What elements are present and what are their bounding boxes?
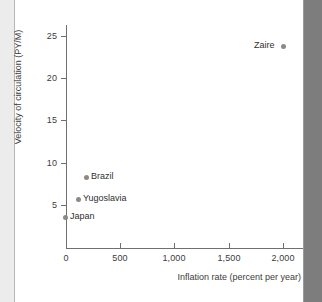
data-point-label-brazil: Brazil — [91, 171, 114, 181]
x-axis-tick-label: 0 — [46, 253, 86, 263]
y-axis-tick-mark — [61, 78, 67, 79]
y-axis-tick-label: 20 — [31, 73, 57, 83]
y-axis-title: Velocity of circulation (PY/M) — [13, 17, 23, 157]
y-axis-tick-mark — [61, 36, 67, 37]
data-point-zaire[interactable] — [281, 44, 286, 49]
data-point-label-yugoslavia: Yugoslavia — [83, 193, 127, 203]
x-axis-tick-label: 1,500 — [209, 253, 249, 263]
y-axis-tick-label: 25 — [31, 31, 57, 41]
x-axis-tick-mark — [174, 243, 175, 249]
y-axis-tick-label: 10 — [31, 158, 57, 168]
x-axis-title: Inflation rate (percent per year) — [120, 272, 301, 282]
y-axis-tick-label: 5 — [31, 200, 57, 210]
x-axis-tick-mark — [283, 243, 284, 249]
y-axis-tick-mark — [61, 120, 67, 121]
y-axis-tick-mark — [61, 205, 67, 206]
x-axis-tick-label: 500 — [100, 253, 140, 263]
x-axis-tick-mark — [229, 243, 230, 249]
page-right-margin-band — [304, 0, 322, 302]
data-point-label-zaire: Zaire — [254, 40, 275, 50]
x-axis-tick-label: 2,000 — [263, 253, 303, 263]
data-point-brazil[interactable] — [84, 175, 89, 180]
x-axis-line — [66, 248, 303, 249]
x-axis-tick-mark — [120, 243, 121, 249]
figure-canvas: 25 20 15 10 5 0 500 1,000 1,500 2,000 Ve… — [0, 0, 322, 302]
data-point-yugoslavia[interactable] — [76, 197, 81, 202]
scatter-plot: 25 20 15 10 5 0 500 1,000 1,500 2,000 Ve… — [0, 0, 303, 302]
data-point-japan[interactable] — [63, 215, 68, 220]
y-axis-tick-mark — [61, 163, 67, 164]
y-axis-tick-label: 15 — [31, 115, 57, 125]
data-point-label-japan: Japan — [70, 211, 95, 221]
x-axis-tick-label: 1,000 — [154, 253, 194, 263]
